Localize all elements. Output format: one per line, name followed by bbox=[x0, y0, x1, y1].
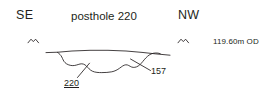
archaeological-section-figure: SE NW posthole 220 119.60m OD 220 157 bbox=[0, 0, 277, 102]
orientation-label-nw: NW bbox=[178, 9, 199, 22]
datum-tick-right-icon bbox=[178, 39, 189, 43]
leader-line-157 bbox=[131, 59, 151, 71]
context-number-cut-220: 220 bbox=[64, 79, 79, 88]
section-title: posthole 220 bbox=[71, 11, 137, 23]
orientation-label-se: SE bbox=[16, 9, 33, 22]
context-number-fill-157: 157 bbox=[151, 67, 166, 76]
datum-level-label: 119.60m OD bbox=[213, 38, 259, 46]
leader-line-220 bbox=[78, 63, 90, 77]
cut-profile-line bbox=[58, 52, 161, 72]
datum-tick-left-icon bbox=[28, 39, 39, 43]
section-drawing-svg bbox=[0, 0, 277, 102]
ground-surface-line bbox=[46, 50, 170, 55]
